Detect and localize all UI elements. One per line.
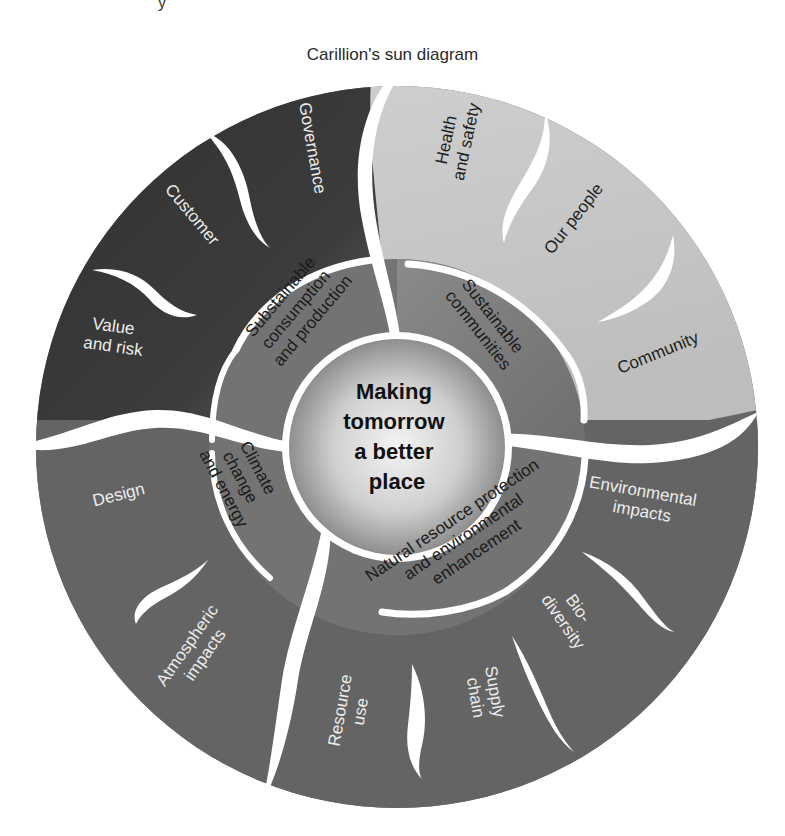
- center-line: a better: [354, 439, 434, 464]
- sun-diagram: Making tomorrow a better place Substaina…: [0, 0, 785, 836]
- center-line: tomorrow: [343, 409, 445, 434]
- center-line: place: [369, 469, 425, 494]
- center-line: Making: [356, 379, 432, 404]
